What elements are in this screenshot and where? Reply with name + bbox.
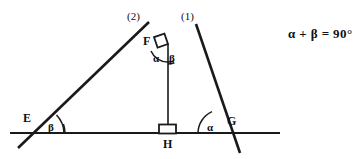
- point-label-E: E: [23, 112, 31, 124]
- angle-label-beta-at-E: β: [48, 122, 54, 133]
- point-label-F: F: [143, 35, 150, 47]
- point-label-G: G: [227, 115, 236, 127]
- angle-sum-equation: α + β = 90°: [288, 27, 353, 40]
- line-two-ray: [18, 22, 149, 148]
- angle-label-beta-at-F: β: [169, 53, 175, 64]
- ray-label-two: (2): [127, 11, 140, 22]
- angle-label-alpha-at-G: α: [207, 122, 213, 133]
- diagram-canvas: E F G H (2) (1) α β β α α + β = 90°: [0, 0, 364, 159]
- right-angle-at-F-marker: [154, 34, 168, 48]
- angle-arc-beta-at-E-long: [57, 115, 65, 133]
- geometry-figure: [0, 0, 364, 159]
- angle-label-alpha-at-F: α: [153, 53, 159, 64]
- ray-label-one: (1): [181, 11, 194, 22]
- right-angle-at-H-marker: [159, 125, 176, 134]
- point-label-H: H: [163, 138, 172, 150]
